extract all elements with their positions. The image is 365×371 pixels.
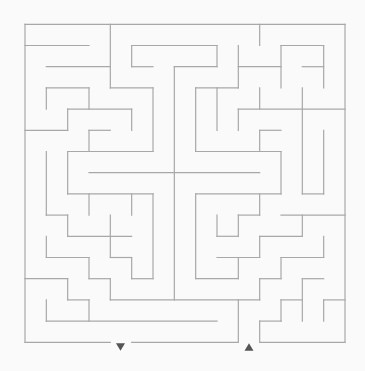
maze xyxy=(0,0,365,371)
maze-background xyxy=(0,0,365,371)
